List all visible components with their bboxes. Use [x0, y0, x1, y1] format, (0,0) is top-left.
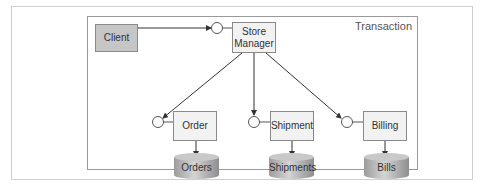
- shipment-label: Shipment: [271, 120, 313, 132]
- billing-label: Billing: [372, 120, 399, 132]
- bills-label: Bills: [364, 162, 409, 173]
- billing-node: Billing: [363, 111, 407, 141]
- shipments-label: Shipments: [269, 162, 314, 173]
- store-manager-node: Store Manager: [232, 22, 276, 53]
- shipment-node: Shipment: [270, 111, 314, 141]
- orders-label: Orders: [174, 162, 219, 173]
- order-label: Order: [182, 120, 208, 132]
- client-label: Client: [104, 32, 130, 44]
- client-node: Client: [95, 24, 138, 52]
- store-manager-label-2: Manager: [234, 38, 273, 50]
- order-node: Order: [173, 111, 217, 141]
- store-manager-label-1: Store: [242, 26, 266, 38]
